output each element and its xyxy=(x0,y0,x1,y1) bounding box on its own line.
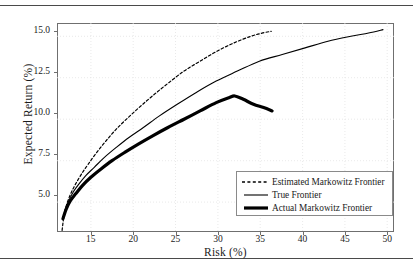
dashed-line-icon xyxy=(241,175,269,188)
xtick-label-40: 40 xyxy=(283,234,323,244)
tickmark-y-7_5 xyxy=(54,154,57,155)
xtick-label-35: 35 xyxy=(240,234,280,244)
solid-line-icon xyxy=(241,188,269,201)
xtick-label-25: 25 xyxy=(156,234,196,244)
xtick-label-50: 50 xyxy=(367,234,407,244)
chart-legend: Estimated Markowitz Frontier True Fronti… xyxy=(236,171,393,216)
y-axis-label: Expected Return (%) xyxy=(22,24,34,204)
tickmark-y-12_5 xyxy=(54,72,57,73)
legend-item-estimated: Estimated Markowitz Frontier xyxy=(241,175,388,188)
x-axis-label: Risk (%) xyxy=(57,246,394,258)
legend-item-true: True Frontier xyxy=(241,188,388,201)
efficient-frontier-chart: 15.0 12.5 10.0 7.5 5.0 1520253035404550 … xyxy=(0,0,413,268)
tickmark-y-5 xyxy=(54,195,57,196)
xtick-label-15: 15 xyxy=(71,234,111,244)
legend-label-actual: Actual Markowitz Frontier xyxy=(269,203,372,213)
tickmark-y-15 xyxy=(54,31,57,32)
tickmark-y-10 xyxy=(54,113,57,114)
legend-item-actual: Actual Markowitz Frontier xyxy=(241,201,388,214)
xtick-label-20: 20 xyxy=(113,234,153,244)
legend-label-true: True Frontier xyxy=(269,190,322,200)
xtick-label-30: 30 xyxy=(198,234,238,244)
legend-label-estimated: Estimated Markowitz Frontier xyxy=(269,177,385,187)
thick-line-icon xyxy=(241,201,269,214)
xtick-label-45: 45 xyxy=(325,234,365,244)
